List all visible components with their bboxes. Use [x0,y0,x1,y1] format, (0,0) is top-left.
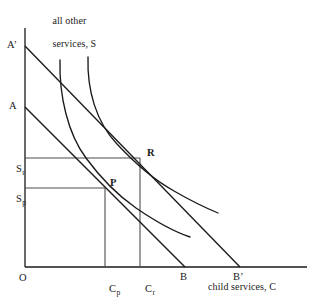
y-tick-label-s-p-base: S [16,193,22,204]
y-axis-title-line1: all other [52,15,86,26]
y-tick-label-s-r-base: S [16,163,22,174]
y-tick-label-s-p-sub: p [22,198,26,207]
budget-line-a-prime-b-prime [25,46,240,267]
y-axis-title: all other services, S [42,3,96,62]
axes-group [25,28,307,267]
guide-lines-group [25,158,140,267]
indifference-curves-group [60,57,218,237]
y-axis-title-line2: services, S [52,38,96,49]
y-tick-label-s-p: Sp [5,181,26,218]
origin-label: O [19,272,27,284]
x-tick-label-c-r-base: C [145,283,152,294]
budget-lines-group [25,46,240,267]
economics-indifference-curve-figure: all other services, S child services, C … [0,0,315,297]
x-tick-label-b: B [180,271,187,283]
x-tick-label-c-p-sub: p [116,288,120,297]
x-tick-label-c-p: Cp [98,271,120,297]
x-tick-label-b-prime: B’ [233,271,244,283]
x-tick-label-c-r: Cr [134,271,155,297]
y-tick-label-a-prime: A’ [7,39,17,51]
point-label-r: R [147,147,155,159]
y-tick-label-s-r-sub: r [22,168,25,177]
x-tick-label-c-r-sub: r [152,288,155,297]
y-tick-label-a: A [9,100,17,112]
x-tick-label-c-p-base: C [109,283,116,294]
point-label-p: P [110,177,117,189]
